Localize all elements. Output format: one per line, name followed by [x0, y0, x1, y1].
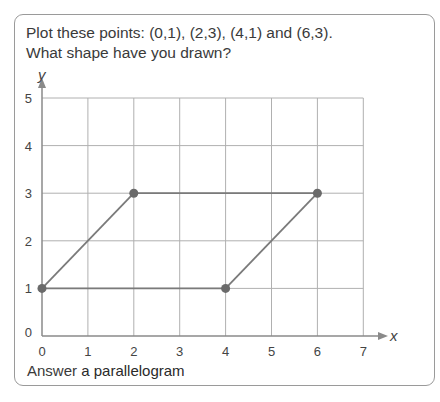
x-tick-label: 4 [222, 344, 229, 359]
answer-label: Answer [27, 362, 77, 379]
x-tick-label: 3 [176, 344, 183, 359]
y-tick-label: 5 [25, 91, 32, 106]
point-marker-icon [129, 189, 138, 198]
coordinate-grid: xy 01234567012345 [0, 0, 440, 402]
x-tick-label: 6 [314, 344, 321, 359]
x-tick-label: 0 [38, 344, 45, 359]
x-axis-label: x [389, 327, 398, 344]
x-tick-label: 7 [360, 344, 367, 359]
answer-line: Answer a parallelogram [27, 362, 185, 379]
answer-value: a parallelogram [81, 362, 184, 379]
x-tick-label: 2 [130, 344, 137, 359]
tick-labels: 01234567012345 [25, 91, 367, 359]
point-marker-icon [38, 284, 47, 293]
y-tick-label: 2 [25, 234, 32, 249]
y-tick-label: 4 [25, 139, 32, 154]
point-marker-icon [221, 284, 230, 293]
x-tick-label: 5 [268, 344, 275, 359]
y-tick-label: 1 [25, 281, 32, 296]
grid-lines [42, 98, 363, 336]
x-axis-arrow-icon [378, 332, 388, 340]
axes: xy [37, 66, 398, 344]
y-tick-label: 0 [25, 325, 32, 340]
point-marker-icon [313, 189, 322, 198]
x-tick-label: 1 [84, 344, 91, 359]
y-axis-label: y [37, 66, 47, 83]
y-tick-label: 3 [25, 186, 32, 201]
